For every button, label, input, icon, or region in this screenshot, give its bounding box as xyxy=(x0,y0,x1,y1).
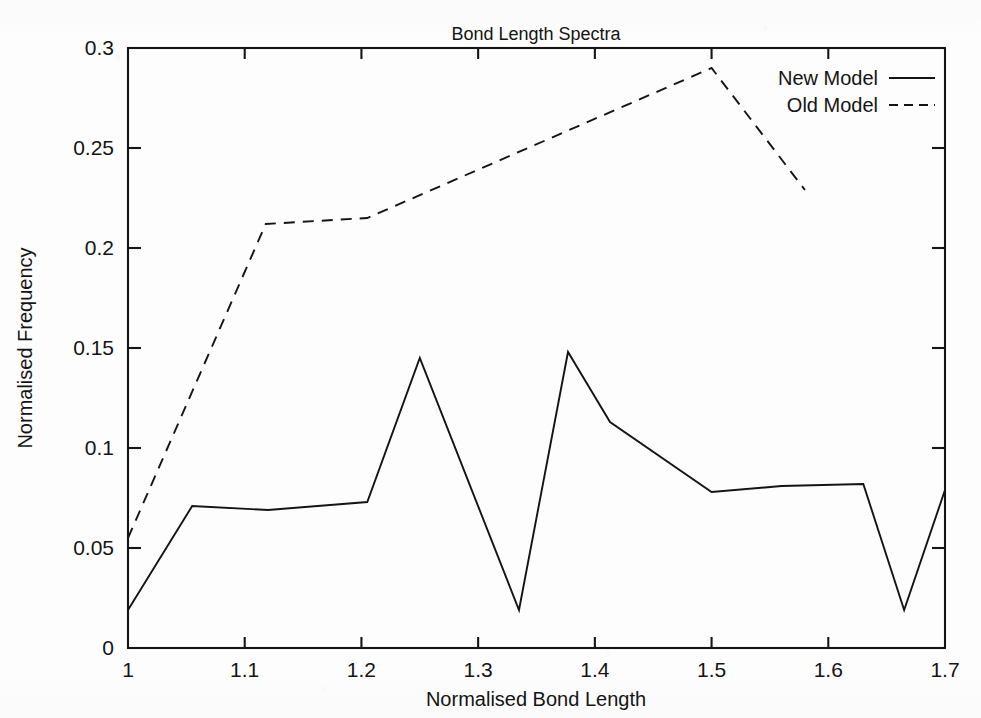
x-tick-label: 1.1 xyxy=(230,658,259,681)
y-axis-title: Normalised Frequency xyxy=(14,247,36,448)
plot-frame xyxy=(128,48,945,648)
x-tick-label: 1.4 xyxy=(580,658,610,681)
y-tick-label: 0.15 xyxy=(73,336,114,359)
series-line-old-model xyxy=(128,68,805,538)
y-tick-label: 0.3 xyxy=(85,36,114,59)
y-axis-ticks xyxy=(128,148,945,548)
y-tick-label: 0.05 xyxy=(73,536,114,559)
chart-legend: New Model Old Model xyxy=(778,67,935,116)
x-axis-title: Normalised Bond Length xyxy=(426,688,646,710)
x-tick-label: 1.5 xyxy=(697,658,726,681)
y-tick-label: 0.2 xyxy=(85,236,114,259)
legend-label-old-model: Old Model xyxy=(787,94,878,116)
chart-page: Bond Length Spectra 11.11.21.31.41.51.61… xyxy=(0,0,981,718)
x-axis-tick-labels: 11.11.21.31.41.51.61.7 xyxy=(122,658,959,681)
y-tick-label: 0.25 xyxy=(73,136,114,159)
bond-length-spectra-chart: Bond Length Spectra 11.11.21.31.41.51.61… xyxy=(0,0,981,718)
chart-title: Bond Length Spectra xyxy=(451,24,621,44)
x-tick-label: 1.3 xyxy=(464,658,493,681)
x-tick-label: 1.6 xyxy=(814,658,843,681)
y-tick-label: 0.1 xyxy=(85,436,114,459)
series-line-new-model xyxy=(128,352,945,610)
x-tick-label: 1.2 xyxy=(347,658,376,681)
y-axis-tick-labels: 00.050.10.150.20.250.3 xyxy=(73,36,114,659)
x-axis-ticks xyxy=(245,48,829,648)
legend-label-new-model: New Model xyxy=(778,67,878,89)
x-tick-label: 1.7 xyxy=(930,658,959,681)
y-tick-label: 0 xyxy=(102,636,114,659)
x-tick-label: 1 xyxy=(122,658,134,681)
